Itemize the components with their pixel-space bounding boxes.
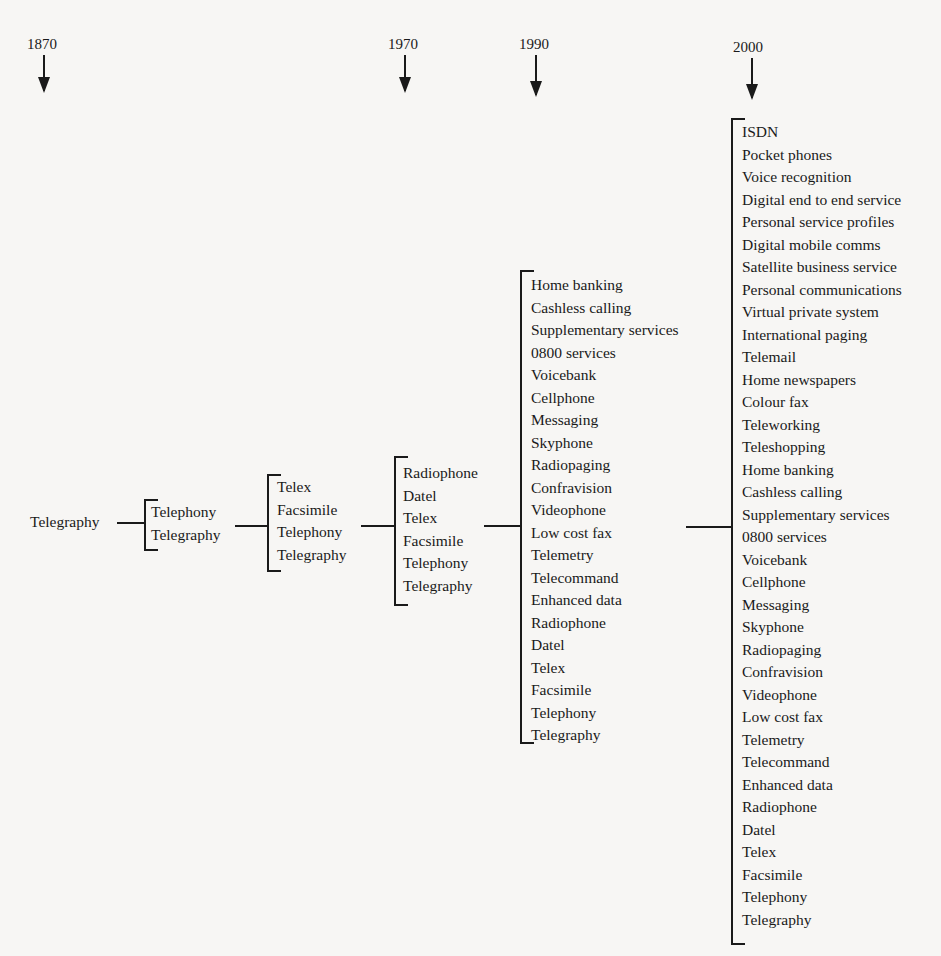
list-item: Datel [531, 634, 679, 657]
list-item: Telecommand [531, 567, 679, 590]
list-item: Datel [742, 819, 902, 842]
list-item: Skyphone [742, 616, 902, 639]
year-label-1870: 1870 [27, 37, 57, 52]
list-item: Datel [403, 485, 478, 508]
list-item: Radiophone [742, 796, 902, 819]
list-item: Confravision [531, 477, 679, 500]
list-item: Telephony [742, 886, 902, 909]
list-item: Home banking [742, 459, 902, 482]
stage-2-list: Telex Facsimile Telephony Telegraphy [277, 476, 347, 566]
list-item: Facsimile [277, 499, 347, 522]
list-item: Videophone [742, 684, 902, 707]
list-item: Voicebank [531, 364, 679, 387]
list-item: Telephony [531, 702, 679, 725]
list-item: International paging [742, 324, 902, 347]
connector-line [117, 522, 144, 524]
list-item: Home newspapers [742, 369, 902, 392]
stage-1970-list: Radiophone Datel Telex Facsimile Telepho… [403, 462, 478, 597]
list-item: Skyphone [531, 432, 679, 455]
list-item: Radiophone [531, 612, 679, 635]
list-item: Enhanced data [742, 774, 902, 797]
list-item: Personal service profiles [742, 211, 902, 234]
connector-line [235, 525, 267, 527]
list-item: Personal communications [742, 279, 902, 302]
list-item: Teleshopping [742, 436, 902, 459]
list-item: Telemetry [742, 729, 902, 752]
list-item: Radiopaging [742, 639, 902, 662]
list-item: Telephony [277, 521, 347, 544]
list-item: Telemetry [531, 544, 679, 567]
list-item: Pocket phones [742, 144, 902, 167]
list-item: ISDN [742, 121, 902, 144]
connector-line [686, 526, 732, 528]
list-item: Videophone [531, 499, 679, 522]
list-item: Enhanced data [531, 589, 679, 612]
list-item: Telegraphy [403, 575, 478, 598]
list-item: Cellphone [742, 571, 902, 594]
year-label-2000: 2000 [733, 40, 763, 55]
list-item: Telecommand [742, 751, 902, 774]
list-item: Facsimile [742, 864, 902, 887]
list-item: Radiopaging [531, 454, 679, 477]
list-item: Telex [403, 507, 478, 530]
root-node-telegraphy: Telegraphy [30, 511, 100, 533]
list-item: Teleworking [742, 414, 902, 437]
list-item: Virtual private system [742, 301, 902, 324]
list-item: Satellite business service [742, 256, 902, 279]
connector-line [484, 525, 520, 527]
year-label-1970: 1970 [388, 37, 418, 52]
list-item: 0800 services [742, 526, 902, 549]
list-item: Cellphone [531, 387, 679, 410]
down-arrow-icon [535, 55, 537, 95]
list-item: Colour fax [742, 391, 902, 414]
list-item: Telex [531, 657, 679, 680]
list-item: Radiophone [403, 462, 478, 485]
list-item: Telegraphy [151, 524, 221, 547]
list-item: Telex [742, 841, 902, 864]
list-item: Low cost fax [531, 522, 679, 545]
stage-2000-list: ISDN Pocket phones Voice recognition Dig… [742, 121, 902, 931]
list-item: Digital mobile comms [742, 234, 902, 257]
list-item: Voicebank [742, 549, 902, 572]
list-item: Low cost fax [742, 706, 902, 729]
list-item: Telephony [151, 501, 221, 524]
list-item: Cashless calling [742, 481, 902, 504]
list-item: Home banking [531, 274, 679, 297]
list-item: Telegraphy [531, 724, 679, 747]
list-item: Messaging [531, 409, 679, 432]
list-item: Voice recognition [742, 166, 902, 189]
list-item: Facsimile [531, 679, 679, 702]
connector-line [361, 525, 394, 527]
list-item: Telegraphy [742, 909, 902, 932]
down-arrow-icon [43, 55, 45, 91]
list-item: Telephony [403, 552, 478, 575]
list-item: Confravision [742, 661, 902, 684]
list-item: Digital end to end service [742, 189, 902, 212]
list-item: Supplementary services [531, 319, 679, 342]
stage-1-list: Telephony Telegraphy [151, 501, 221, 546]
list-item: 0800 services [531, 342, 679, 365]
stage-1990-list: Home banking Cashless calling Supplement… [531, 274, 679, 747]
list-item: Telex [277, 476, 347, 499]
year-label-1990: 1990 [519, 37, 549, 52]
list-item: Telemail [742, 346, 902, 369]
down-arrow-icon [404, 55, 406, 91]
list-item: Cashless calling [531, 297, 679, 320]
list-item: Messaging [742, 594, 902, 617]
list-item: Facsimile [403, 530, 478, 553]
down-arrow-icon [751, 58, 753, 98]
list-item: Supplementary services [742, 504, 902, 527]
list-item: Telegraphy [277, 544, 347, 567]
